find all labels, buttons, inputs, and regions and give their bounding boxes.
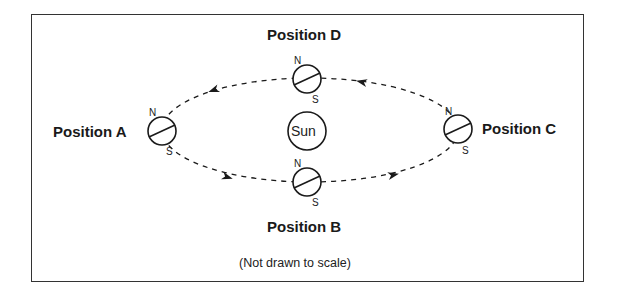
arrow-icon (221, 172, 234, 183)
south-label-a: S (166, 147, 173, 157)
arrow-icon (207, 85, 220, 96)
south-label-c: S (462, 146, 469, 156)
scale-note: (Not drawn to scale) (239, 257, 351, 270)
position-b-label: Position B (267, 219, 341, 234)
north-label-a: N (149, 108, 156, 118)
position-c-label: Position C (482, 121, 556, 136)
north-label-d: N (294, 56, 301, 66)
position-d-label: Position D (267, 27, 341, 42)
sun-label: Sun (291, 124, 316, 138)
north-label-c: N (445, 107, 452, 117)
position-a-label: Position A (53, 124, 127, 139)
arrow-icon (387, 170, 399, 180)
earth-icon-position-c (444, 115, 472, 143)
earth-icon-position-a (148, 117, 176, 145)
earth-icon-position-d (293, 65, 321, 93)
earth-icon-position-b (293, 168, 321, 196)
north-label-b: N (294, 159, 301, 169)
south-label-d: S (312, 95, 319, 105)
south-label-b: S (312, 198, 319, 208)
